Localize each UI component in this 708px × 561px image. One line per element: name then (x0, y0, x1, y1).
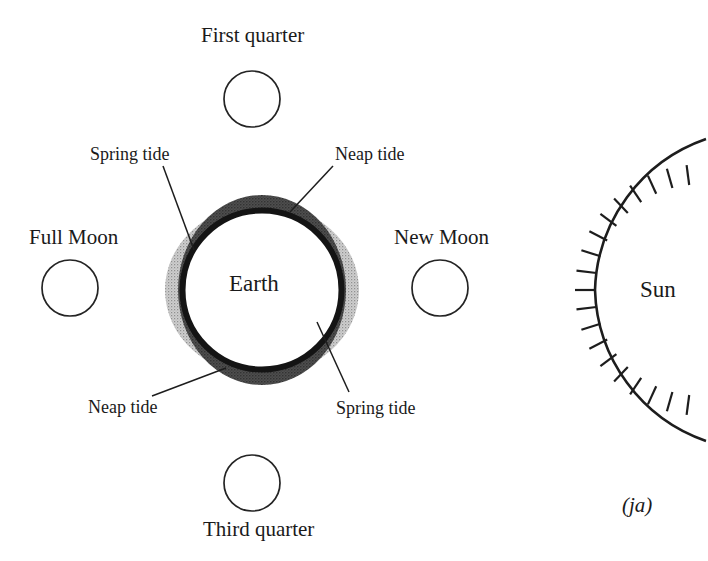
earth-label: Earth (229, 272, 279, 295)
diagram-canvas (0, 0, 708, 561)
moon-circle-full-moon[interactable] (42, 260, 98, 316)
moon-circle-third-quarter[interactable] (224, 455, 280, 511)
moon-label-first-quarter: First quarter (201, 25, 304, 46)
moon-circle-new-moon[interactable] (412, 260, 468, 316)
tide-label-spring-tide-bottom: Spring tide (336, 399, 416, 417)
figure-caption: (ja) (622, 495, 652, 516)
moon-circle-first-quarter[interactable] (224, 71, 280, 127)
leader-neap-tide-top (290, 166, 333, 212)
tide-label-spring-tide-top: Spring tide (90, 145, 170, 163)
moon-label-full-moon: Full Moon (29, 227, 118, 248)
tide-label-neap-tide-bottom: Neap tide (88, 398, 157, 416)
moon-label-new-moon: New Moon (394, 227, 489, 248)
tide-moon-phase-diagram: First quarter Full Moon New Moon Third q… (0, 0, 708, 561)
sun-label: Sun (640, 278, 676, 301)
moon-label-third-quarter: Third quarter (203, 519, 314, 540)
leader-spring-tide-top (163, 166, 194, 250)
leader-neap-tide-bottom (152, 368, 226, 396)
tide-label-neap-tide-top: Neap tide (335, 145, 404, 163)
